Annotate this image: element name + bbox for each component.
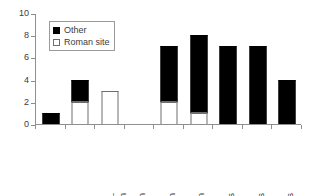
x-tick-label: Hadrian	[196, 193, 206, 196]
x-tick-mark	[301, 125, 302, 129]
x-tick-label: Pre- Flavian	[108, 193, 128, 196]
x-tick-mark	[271, 125, 272, 129]
x-tick-mark	[242, 125, 243, 129]
x-tick-mark	[153, 125, 154, 129]
legend-swatch-other-icon	[53, 27, 60, 34]
x-tick-mark	[94, 125, 95, 129]
y-tick-label: 6	[24, 53, 29, 62]
x-tick-label: A Pius	[226, 193, 236, 196]
bar-chart: 0246810 Pre- FlavianFlavianTrajanHadrian…	[0, 0, 312, 196]
x-tick-label: Flavian	[137, 193, 147, 196]
legend-label-roman-site: Roman site	[64, 37, 110, 47]
x-tick-mark	[35, 125, 36, 129]
y-tick-label: 8	[24, 31, 29, 40]
legend-swatch-roman-site-icon	[53, 39, 60, 46]
legend-label-other: Other	[64, 25, 87, 35]
x-tick-mark	[124, 125, 125, 129]
x-tick-label: M Aurelius	[256, 193, 266, 196]
legend-item-other: Other	[53, 24, 110, 36]
x-tick-mark	[65, 125, 66, 129]
y-tick-label: 10	[19, 9, 29, 18]
x-tick-label: Trajan	[167, 193, 177, 196]
legend-item-roman-site: Roman site	[53, 36, 110, 48]
x-tick-mark	[183, 125, 184, 129]
y-tick-label: 2	[24, 98, 29, 107]
y-axis: 0246810	[0, 0, 36, 135]
x-axis-labels: Pre- FlavianFlavianTrajanHadrianA PiusM …	[35, 131, 301, 195]
x-tick-mark	[212, 125, 213, 129]
legend: Other Roman site	[49, 21, 115, 51]
y-tick-label: 0	[24, 120, 29, 129]
y-tick-label: 4	[24, 76, 29, 85]
x-tick-label: Commodus	[285, 193, 295, 196]
